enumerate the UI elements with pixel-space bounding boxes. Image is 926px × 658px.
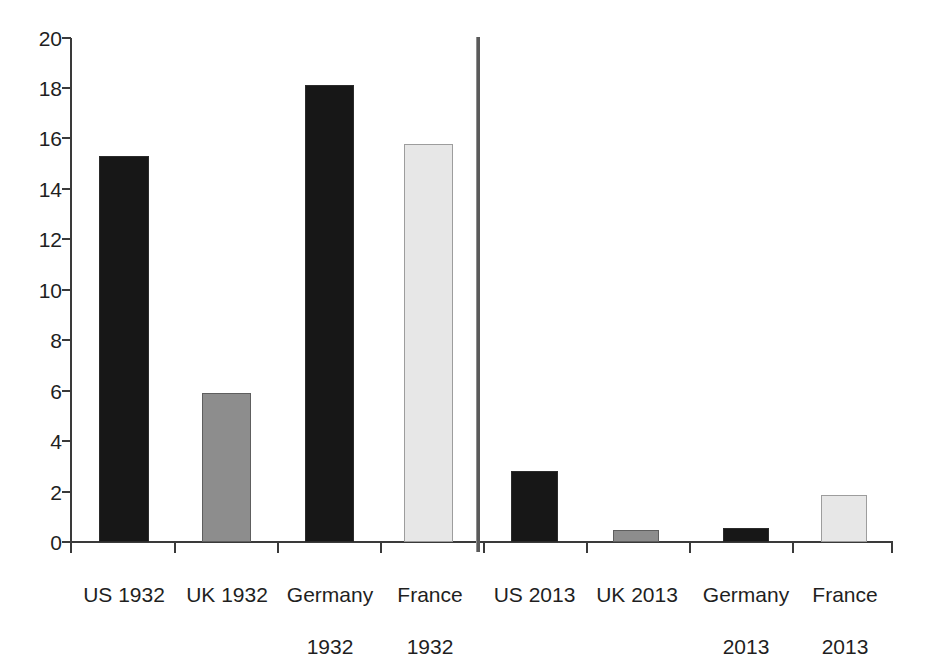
y-tick-mark-2	[62, 491, 71, 493]
y-tick-0: 0	[0, 532, 62, 553]
y-tick-8: 8	[0, 330, 62, 351]
y-tick-mark-10	[62, 289, 71, 291]
x-tick-mark-4	[483, 543, 485, 553]
x-label-uk-2013-line1: UK 2013	[596, 583, 678, 606]
y-tick-mark-20	[62, 37, 71, 39]
y-tick-label-12: 12	[18, 229, 62, 250]
y-tick-label-20: 20	[18, 28, 62, 49]
bar-france-2013	[821, 495, 867, 542]
y-tick-2: 2	[0, 482, 62, 503]
y-tick-label-6: 6	[18, 381, 62, 402]
y-tick-label-2: 2	[18, 482, 62, 503]
x-label-france-2013-line2: 2013	[822, 635, 869, 658]
bar-us-2013	[511, 471, 558, 542]
bar-germany-2013	[723, 528, 769, 542]
x-label-germany-2013-line1: Germany	[703, 583, 789, 606]
x-axis-line	[70, 541, 893, 543]
x-label-uk-2013: UK 2013	[578, 556, 696, 608]
x-label-us-1932-line1: US 1932	[83, 583, 165, 606]
bar-uk-2013	[613, 530, 659, 542]
x-label-france-2013-line1: France	[812, 583, 877, 606]
y-tick-mark-4	[62, 440, 71, 442]
x-label-us-2013: US 2013	[477, 556, 592, 608]
x-label-france-1932-line2: 1932	[407, 635, 454, 658]
y-tick-label-16: 16	[18, 128, 62, 149]
x-label-germany-2013: Germany 2013	[686, 556, 806, 658]
x-label-germany-1932-line1: Germany	[287, 583, 373, 606]
y-tick-18: 18	[0, 78, 62, 99]
x-label-france-1932-line1: France	[397, 583, 462, 606]
y-tick-label-14: 14	[18, 179, 62, 200]
x-label-germany-1932: Germany 1932	[270, 556, 390, 658]
x-label-us-2013-line1: US 2013	[494, 583, 576, 606]
x-tick-mark-5	[586, 543, 588, 553]
x-tick-mark-1	[174, 543, 176, 553]
y-tick-label-8: 8	[18, 330, 62, 351]
period-divider-line	[476, 37, 480, 552]
x-tick-mark-2	[277, 543, 279, 553]
y-tick-4: 4	[0, 431, 62, 452]
x-label-uk-1932: UK 1932	[167, 556, 287, 608]
x-tick-mark-7	[792, 543, 794, 553]
y-tick-20: 20	[0, 28, 62, 49]
x-tick-mark-8	[891, 543, 893, 553]
y-tick-label-18: 18	[18, 78, 62, 99]
y-tick-mark-12	[62, 238, 71, 240]
y-tick-mark-14	[62, 188, 71, 190]
y-tick-14: 14	[0, 179, 62, 200]
y-tick-mark-6	[62, 390, 71, 392]
x-tick-mark-3	[380, 543, 382, 553]
x-label-france-1932: France 1932	[373, 556, 487, 658]
y-tick-10: 10	[0, 280, 62, 301]
bar-france-1932	[404, 144, 453, 542]
x-label-germany-2013-line2: 2013	[723, 635, 770, 658]
y-tick-label-4: 4	[18, 431, 62, 452]
y-tick-6: 6	[0, 381, 62, 402]
bar-uk-1932	[202, 393, 251, 542]
bar-us-1932	[99, 156, 149, 542]
x-label-uk-1932-line1: UK 1932	[186, 583, 268, 606]
x-tick-mark-6	[689, 543, 691, 553]
x-label-germany-1932-line2: 1932	[307, 635, 354, 658]
y-tick-label-0: 0	[18, 532, 62, 553]
y-tick-label-10: 10	[18, 280, 62, 301]
bar-germany-1932	[305, 85, 354, 542]
y-tick-12: 12	[0, 229, 62, 250]
y-tick-mark-8	[62, 339, 71, 341]
x-label-us-1932: US 1932	[64, 556, 184, 608]
y-tick-mark-16	[62, 137, 71, 139]
y-tick-mark-18	[62, 87, 71, 89]
x-tick-mark-0	[70, 543, 72, 553]
y-tick-16: 16	[0, 128, 62, 149]
x-label-france-2013: France 2013	[789, 556, 901, 658]
